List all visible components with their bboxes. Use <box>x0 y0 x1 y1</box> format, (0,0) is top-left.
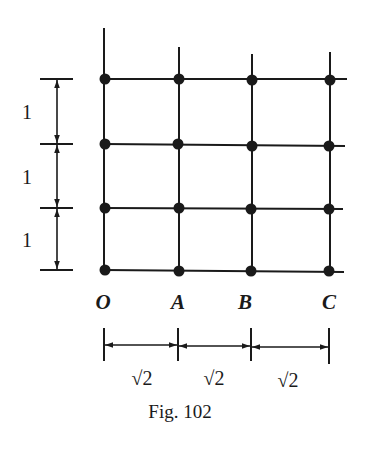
lattice-point <box>324 204 335 215</box>
lattice-points <box>100 74 336 277</box>
grid-line-horizontal-2 <box>104 144 345 146</box>
lattice-point <box>324 266 335 277</box>
dim-label-vertical-3: 1 <box>22 229 32 252</box>
lattice-point <box>100 265 111 276</box>
lattice-point <box>174 266 185 277</box>
dim-label-horizontal-1: √2 <box>132 367 153 390</box>
lattice-point <box>100 139 111 150</box>
dim-label-horizontal-2: √2 <box>204 367 225 390</box>
dim-label-vertical-1: 1 <box>22 101 32 124</box>
lattice-point <box>325 75 336 86</box>
lattice-point <box>100 203 111 214</box>
lattice-point <box>247 141 258 152</box>
lattice-point <box>324 141 335 152</box>
grid-line-horizontal-3 <box>104 208 343 209</box>
lattice-point <box>173 139 184 150</box>
lattice-point <box>246 266 257 277</box>
lattice-point <box>174 74 185 85</box>
point-label-a: A <box>171 290 185 315</box>
lattice-point <box>174 203 185 214</box>
lattice-point <box>246 204 257 215</box>
lattice-point <box>100 74 111 85</box>
grid-line-horizontal-4 <box>104 270 344 272</box>
point-label-b: B <box>238 290 252 315</box>
lattice-point <box>247 75 258 86</box>
point-label-o: O <box>95 290 110 315</box>
point-label-c: C <box>322 290 336 315</box>
dim-label-horizontal-3: √2 <box>278 369 299 392</box>
dim-label-vertical-2: 1 <box>22 166 32 189</box>
figure-caption: Fig. 102 <box>148 401 211 423</box>
lattice-diagram <box>0 0 367 449</box>
